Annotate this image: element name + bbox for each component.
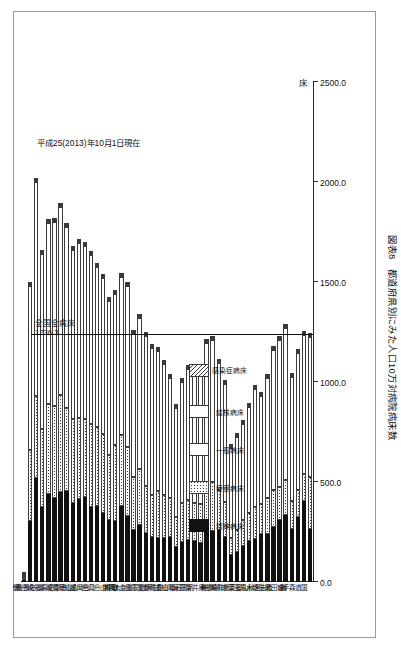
bar-segment-ippan	[144, 336, 148, 486]
category-label: 沖 縄	[13, 585, 22, 592]
bar-segment-ippan	[40, 254, 44, 429]
bar-segment-kekkaku	[113, 292, 117, 294]
bar-segment-kekkaku	[95, 265, 99, 267]
bar-segment-ryoyo	[229, 538, 233, 555]
bar-segment-ippan	[95, 267, 99, 426]
bar-segment-ippan	[28, 286, 32, 450]
bar-segment-kansen	[28, 282, 32, 284]
bar-segment-kansen	[95, 263, 99, 265]
bar-segment-kekkaku	[52, 220, 56, 222]
bar-segment-seishin	[174, 547, 178, 582]
bar	[290, 373, 294, 582]
bar	[265, 374, 269, 582]
bar-segment-kekkaku	[46, 221, 50, 223]
bar-segment-ippan	[137, 318, 141, 470]
bar-segment-ippan	[259, 396, 263, 504]
legend-item: 結核病床	[189, 398, 233, 426]
bar-segment-kekkaku	[253, 387, 257, 389]
bar	[150, 344, 154, 582]
bar-segment-ryoyo	[34, 396, 38, 478]
legend: 感染症病床結核病床一般病床療養病床精神病床	[189, 353, 233, 540]
bar-segment-seishin	[290, 529, 294, 582]
bar-segment-ippan	[52, 222, 56, 406]
bar	[83, 242, 87, 582]
bar	[156, 347, 160, 582]
plot-area: 0.0500.01000.01500.02000.02500.0 全 国北 海 …	[13, 11, 374, 636]
bar-segment-seishin	[52, 498, 56, 582]
bar-segment-kekkaku	[235, 435, 239, 437]
bar-segment-ippan	[125, 286, 129, 447]
bar	[77, 239, 81, 582]
bar-segment-ryoyo	[137, 469, 141, 525]
bar	[308, 333, 312, 582]
bar-segment-kekkaku	[107, 299, 111, 301]
bar-segment-ryoyo	[113, 445, 117, 521]
bar-segment-seishin	[64, 491, 68, 582]
bar-segment-ryoyo	[308, 477, 312, 528]
bar-segment-ippan	[247, 407, 251, 512]
value-axis	[313, 82, 314, 582]
bar-segment-seishin	[144, 533, 148, 582]
bar-segment-seishin	[277, 520, 281, 582]
bar-segment-kansen	[125, 282, 129, 284]
bar-segment-kekkaku	[168, 376, 172, 378]
bar-segment-kansen	[64, 223, 68, 225]
bar-segment-ryoyo	[58, 395, 62, 492]
bar	[46, 219, 50, 582]
bar	[22, 577, 26, 582]
bar-segment-ippan	[156, 351, 160, 490]
bar-segment-kansen	[302, 331, 306, 333]
bar-segment-kekkaku	[77, 241, 81, 243]
bar	[125, 282, 129, 582]
bar-segment-seishin	[229, 555, 233, 582]
value-tick	[313, 281, 318, 282]
bar-segment-kansen	[283, 324, 287, 326]
bar	[89, 251, 93, 582]
bar-segment-seishin	[101, 513, 105, 582]
bar-segment-seishin	[271, 527, 275, 582]
bar-segment-seishin	[247, 541, 251, 582]
bar-segment-kekkaku	[125, 284, 129, 286]
bar-segment-seishin	[40, 507, 44, 582]
value-axis-unit: 床	[299, 76, 308, 88]
legend-swatch-kekkaku	[189, 406, 209, 419]
date-note: 平成25(2013)年10月1日現在	[37, 136, 141, 148]
bar-segment-seishin	[137, 525, 141, 582]
legend-label: 療養病床	[216, 485, 244, 492]
national-average-label: 全国全病床 1236.3	[35, 319, 75, 337]
bar-segment-ippan	[277, 340, 281, 487]
bar-segment-ryoyo	[290, 501, 294, 529]
bar-segment-ryoyo	[125, 447, 129, 516]
bar-segment-ippan	[131, 334, 135, 477]
bar-segment-kansen	[58, 203, 62, 205]
bar-segment-kekkaku	[28, 284, 32, 286]
bar-segment-seishin	[259, 534, 263, 582]
bar-segment-kansen	[296, 349, 300, 351]
bar	[34, 178, 38, 582]
bar-segment-kekkaku	[162, 362, 166, 364]
bar-segment-ryoyo	[259, 504, 263, 533]
bar	[71, 246, 75, 582]
bar-segment-seishin	[28, 521, 32, 582]
value-tick-label: 1000.0	[320, 378, 346, 388]
bar-segment-kansen	[119, 273, 123, 275]
bar-segment-ippan	[34, 182, 38, 396]
bar-segment-ryoyo	[174, 517, 178, 547]
bar-segment-kansen	[71, 246, 75, 248]
bar-segment-kekkaku	[71, 248, 75, 250]
bar	[58, 203, 62, 582]
bar-segment-ryoyo	[22, 578, 26, 580]
bar	[64, 223, 68, 582]
bar-segment-kekkaku	[290, 375, 294, 377]
bar-segment-kansen	[265, 374, 269, 376]
bar-segment-ippan	[22, 576, 26, 578]
bar-segment-ryoyo	[247, 513, 251, 541]
bar	[137, 314, 141, 582]
bar-segment-ippan	[89, 255, 93, 423]
bar-segment-seishin	[71, 503, 75, 582]
bar-segment-seishin	[131, 530, 135, 582]
bar-segment-ryoyo	[271, 490, 275, 526]
bar-segment-seishin	[180, 542, 184, 582]
bar-segment-ryoyo	[302, 474, 306, 501]
bar-segment-kansen	[131, 330, 135, 332]
